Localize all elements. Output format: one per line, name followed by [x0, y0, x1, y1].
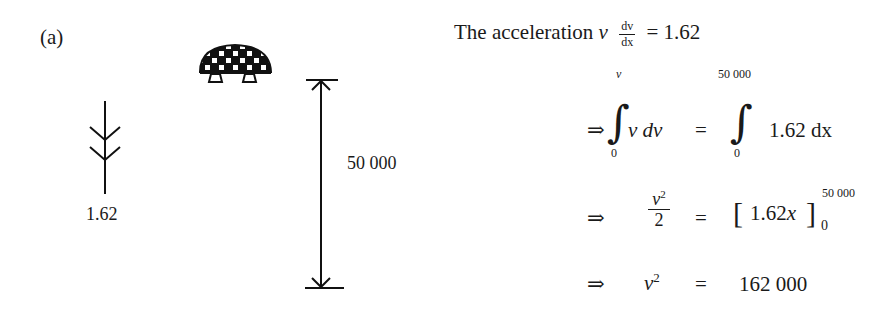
distance-label: 50 000 [347, 153, 397, 174]
line4-lhs: v [644, 271, 653, 295]
line1-frac-den: dx [619, 35, 635, 50]
line3-upper: 50 000 [822, 186, 855, 201]
line2-equals: = [695, 118, 707, 143]
line2-implies: ⇒ [587, 118, 605, 143]
line1-rhs: = 1.62 [646, 20, 700, 44]
line1-frac-num: dv [619, 19, 635, 35]
line3-implies: ⇒ [587, 206, 605, 231]
line2-right-upper: 50 000 [718, 67, 751, 82]
line3-bracket-open: [ [733, 196, 743, 230]
line4-lhs-group: v2 [644, 270, 660, 296]
line3-lower: 0 [821, 218, 828, 234]
line2-left-integrand: v dv [628, 118, 662, 143]
force-label: 1.62 [86, 204, 118, 225]
line3-equals: = [695, 206, 707, 231]
line2-right-lower: 0 [734, 146, 740, 161]
line1-fraction: dv dx [619, 19, 635, 50]
line2-left-lower: 0 [611, 146, 617, 161]
figure-graphics [0, 0, 881, 313]
line2-left-upper: v [616, 67, 621, 82]
line4-equals: = [695, 272, 707, 297]
distance-dimension-icon [305, 80, 344, 288]
line4-lhs-exp: 2 [653, 270, 660, 285]
line2-right-integral: ∫ [730, 100, 753, 144]
line1-var: v [599, 20, 608, 44]
line3-frac-num-exp: 2 [660, 188, 666, 200]
double-arrow-icon [90, 101, 120, 194]
equation-line-1: The acceleration v dv dx = 1.62 [454, 19, 700, 50]
line3-frac-den: 2 [648, 209, 670, 230]
line4-implies: ⇒ [587, 272, 605, 297]
line3-fraction: v2 2 [648, 184, 670, 230]
line3-bracket-close: ] [806, 196, 816, 230]
line3-bracket-content: 1.62x [750, 201, 796, 226]
lander-icon [200, 45, 271, 82]
line1-prefix: The acceleration [454, 20, 593, 44]
line2-right-integrand: 1.62 dx [769, 118, 832, 143]
line2-left-integral: ∫ [607, 100, 630, 144]
line4-rhs: 162 000 [739, 272, 807, 297]
